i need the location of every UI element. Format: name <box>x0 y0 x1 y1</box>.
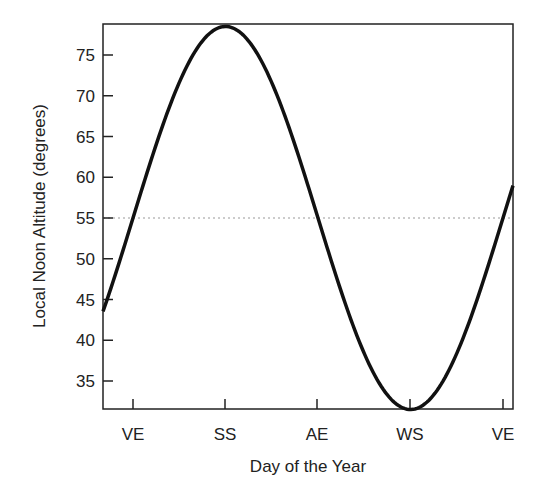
plot-frame <box>103 24 513 409</box>
y-tick-label: 60 <box>76 168 95 187</box>
x-tick-label-ws: WS <box>396 425 423 444</box>
x-tick-label-ve: VE <box>122 425 145 444</box>
y-tick-label: 45 <box>76 291 95 310</box>
y-tick-label: 35 <box>76 372 95 391</box>
y-axis-title: Local Noon Altitude (degrees) <box>30 104 49 328</box>
x-tick-label-ve: VE <box>492 425 515 444</box>
y-axis: 354045505560657075 <box>76 46 113 391</box>
x-axis-title: Day of the Year <box>250 457 367 476</box>
y-tick-label: 75 <box>76 46 95 65</box>
y-tick-label: 55 <box>76 209 95 228</box>
y-tick-label: 50 <box>76 250 95 269</box>
y-tick-label: 70 <box>76 87 95 106</box>
x-tick-label-ss: SS <box>214 425 237 444</box>
x-tick-label-ae: AE <box>306 425 329 444</box>
y-tick-label: 65 <box>76 128 95 147</box>
chart: 354045505560657075 VESSAEWSVE Day of the… <box>0 0 537 499</box>
x-axis: VESSAEWSVE <box>122 399 515 444</box>
y-tick-label: 40 <box>76 331 95 350</box>
